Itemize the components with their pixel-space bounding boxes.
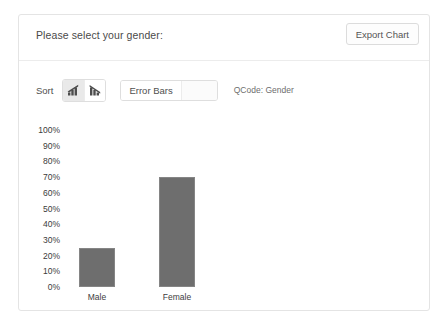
bar-chart: 100%90%80%70%60%50%40%30%20%10%0%MaleFem… bbox=[19, 119, 429, 312]
export-chart-button[interactable]: Export Chart bbox=[346, 23, 419, 45]
y-axis-tick-label: 70% bbox=[43, 172, 60, 182]
bar-female[interactable] bbox=[159, 177, 195, 287]
sort-descending-button[interactable] bbox=[84, 80, 105, 101]
page-title: Please select your gender: bbox=[36, 29, 163, 41]
error-bars-label: Error Bars bbox=[121, 81, 180, 100]
x-axis-tick-label: Female bbox=[163, 292, 191, 302]
error-bars-toggle[interactable] bbox=[181, 81, 217, 100]
sort-button-group bbox=[62, 79, 106, 102]
bar-chart-ascending-icon bbox=[67, 84, 80, 96]
y-axis-tick-label: 50% bbox=[43, 204, 60, 214]
y-axis-tick-label: 20% bbox=[43, 251, 60, 261]
y-axis-tick-label: 80% bbox=[43, 156, 60, 166]
qcode-text: QCode: Gender bbox=[234, 85, 294, 95]
y-axis-tick-label: 30% bbox=[43, 235, 60, 245]
bar-chart-descending-icon bbox=[89, 84, 102, 96]
bar-male[interactable] bbox=[79, 248, 115, 287]
error-bars-control: Error Bars bbox=[120, 80, 217, 101]
x-axis-tick-label: Male bbox=[88, 292, 106, 302]
chart-panel: Please select your gender: Export Chart … bbox=[18, 14, 430, 311]
y-axis-tick-label: 10% bbox=[43, 266, 60, 276]
y-axis-tick-label: 100% bbox=[38, 125, 60, 135]
sort-label: Sort bbox=[36, 85, 53, 96]
plot-area: 100%90%80%70%60%50%40%30%20%10%0%MaleFem… bbox=[65, 130, 225, 287]
panel-header: Please select your gender: Export Chart bbox=[19, 15, 429, 61]
sort-ascending-button[interactable] bbox=[63, 80, 84, 101]
chart-toolbar: Sort bbox=[19, 75, 429, 105]
y-axis-tick-label: 0% bbox=[48, 282, 60, 292]
y-axis-tick-label: 90% bbox=[43, 141, 60, 151]
app-root: Please select your gender: Export Chart … bbox=[0, 0, 448, 328]
y-axis-tick-label: 60% bbox=[43, 188, 60, 198]
y-axis-tick-label: 40% bbox=[43, 219, 60, 229]
